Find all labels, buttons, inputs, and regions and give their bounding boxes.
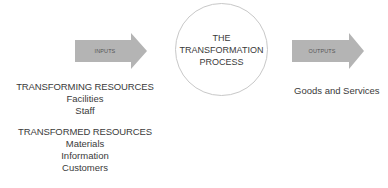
transformation-process-circle: THE TRANSFORMATION PROCESS [175,3,268,96]
outputs-arrow: OUTPUTS [292,33,365,69]
transformed-item: Customers [10,162,160,174]
transformed-resources: TRANSFORMED RESOURCES Materials Informat… [10,126,160,174]
transformed-resources-heading: TRANSFORMED RESOURCES [10,126,160,138]
outputs-goods-and-services: Goods and Services [294,85,380,96]
circle-line-2: TRANSFORMATION [180,44,264,56]
circle-line-1: THE [213,32,231,44]
transforming-resources-heading: TRANSFORMING RESOURCES [10,81,160,93]
inputs-label: INPUTS [75,48,135,54]
transforming-resources: TRANSFORMING RESOURCES Facilities Staff [10,81,160,117]
inputs-arrow: INPUTS [75,33,148,69]
transforming-item: Facilities [10,93,160,105]
transforming-item: Staff [10,105,160,117]
outputs-label: OUTPUTS [292,48,352,54]
transformed-item: Materials [10,138,160,150]
circle-line-3: PROCESS [199,56,243,68]
transformed-item: Information [10,150,160,162]
